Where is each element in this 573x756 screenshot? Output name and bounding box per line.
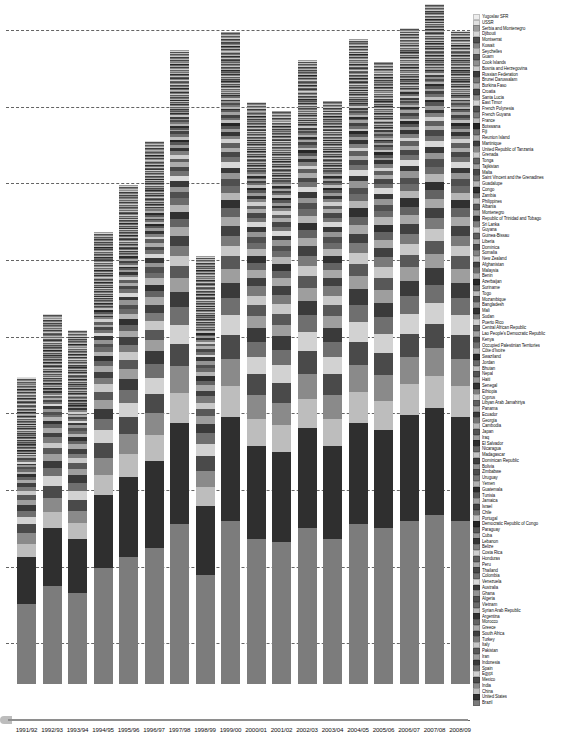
bar-segment: [400, 267, 419, 281]
bar-segment: [119, 379, 138, 390]
bar-segment: [17, 524, 36, 533]
bar-segment: [247, 305, 266, 316]
bar-segment: [400, 198, 419, 206]
bar-segment: [374, 267, 393, 278]
bar-segment: [170, 366, 189, 392]
bar-segment: [400, 224, 419, 234]
bar-segment: [349, 208, 368, 216]
bar-segment: [349, 234, 368, 243]
bar-2008-09[interactable]: [451, 30, 470, 684]
x-tick-labels: 1991/921992/931993/941994/951995/961996/…: [0, 726, 470, 750]
bar-segment: [221, 226, 240, 236]
bar-1996-97[interactable]: [145, 140, 164, 684]
bar-segment: [425, 348, 444, 376]
bar-segment: [196, 506, 215, 575]
bar-segment: [247, 286, 266, 295]
bar-2000-01[interactable]: [247, 101, 266, 684]
bar-segment: [374, 217, 393, 224]
x-tick-label: 2006/07: [397, 726, 422, 733]
bar-segment: [298, 266, 317, 277]
bar-segment: [221, 200, 240, 208]
bar-segment: [323, 342, 342, 357]
bar-segment: [400, 384, 419, 415]
bar-2006-07[interactable]: [400, 28, 419, 684]
bar-segment: [247, 342, 266, 357]
bar-segment: [349, 243, 368, 253]
bar-segment: [374, 248, 393, 257]
bar-segment: [425, 199, 444, 208]
x-tick-label: 2007/08: [422, 726, 447, 733]
bar-segment: [196, 444, 215, 456]
bar-segment: [17, 557, 36, 604]
bar-segment: [425, 515, 444, 684]
bar-segment: [221, 335, 240, 359]
bar-segment: [17, 544, 36, 557]
bar-segment: [400, 255, 419, 268]
x-tick-label: 1994/95: [91, 726, 116, 733]
bar-1998-99[interactable]: [196, 255, 215, 684]
bar-segment: [170, 256, 189, 267]
bar-segment: [374, 401, 393, 430]
bar-segment: [145, 378, 164, 394]
bar-2004-05[interactable]: [349, 39, 368, 685]
bar-segment: [94, 409, 113, 419]
legend-item[interactable]: Brazil: [473, 700, 573, 706]
bar-segment: [221, 521, 240, 684]
bar-segment: [323, 296, 342, 306]
bar-segment: [272, 542, 291, 684]
bar-segment: [298, 351, 317, 374]
x-tick-label: 2003/04: [320, 726, 345, 733]
bar-segment: [451, 256, 470, 269]
bar-segment: [221, 246, 240, 257]
bar-segment: [374, 528, 393, 684]
bar-2003-04[interactable]: [323, 100, 342, 684]
bar-1999-00[interactable]: [221, 31, 240, 684]
bar-segment: [170, 219, 189, 227]
bar-1994-95[interactable]: [94, 232, 113, 684]
bar-segment: [425, 208, 444, 218]
bar-segment: [221, 217, 240, 226]
bar-segment: [247, 357, 266, 374]
bar-segment: [17, 517, 36, 524]
bar-segment: [170, 325, 189, 344]
x-tick-label: 2000/01: [244, 726, 269, 733]
bar-segment: [349, 289, 368, 304]
bar-segment: [94, 384, 113, 391]
bar-segment: [323, 286, 342, 295]
bar-segment: [323, 278, 342, 286]
bar-segment: [298, 528, 317, 684]
bar-segment: [221, 386, 240, 417]
legend[interactable]: Yugoslav SFRUSSRSerbia and MontenegroDji…: [473, 14, 573, 730]
bar-2007-08[interactable]: [425, 4, 444, 684]
bar-segment: [323, 316, 342, 328]
x-tick-label: 1992/93: [40, 726, 65, 733]
bar-segment: [400, 357, 419, 384]
bar-segment: [451, 298, 470, 315]
bar-segment: [221, 208, 240, 216]
bar-1995-96[interactable]: [119, 185, 138, 684]
bar-segment: [272, 452, 291, 543]
bar-2002-03[interactable]: [298, 59, 317, 684]
bar-segment: [323, 539, 342, 684]
bar-segment: [145, 548, 164, 684]
bar-segment: [94, 475, 113, 495]
bar-segment: [170, 524, 189, 684]
bar-segment: [349, 423, 368, 525]
bar-segment: [349, 201, 368, 208]
bar-segment: [374, 225, 393, 232]
bar-segment: [68, 511, 87, 524]
bar-1997-98[interactable]: [170, 49, 189, 684]
bar-1993-94[interactable]: [68, 330, 87, 684]
bar-1991-92[interactable]: [17, 376, 36, 684]
bar-2005-06[interactable]: [374, 61, 393, 684]
bar-segment: [145, 321, 164, 330]
bar-1992-93[interactable]: [43, 314, 62, 684]
bar-2001-02[interactable]: [272, 110, 291, 684]
bar-segment: [451, 335, 470, 359]
bar-segment: [272, 286, 291, 294]
bar-segment: [221, 359, 240, 386]
bar-segment: [94, 443, 113, 458]
bar-segment: [247, 270, 266, 278]
bar-segment: [272, 304, 291, 314]
bar-segment: [94, 400, 113, 409]
